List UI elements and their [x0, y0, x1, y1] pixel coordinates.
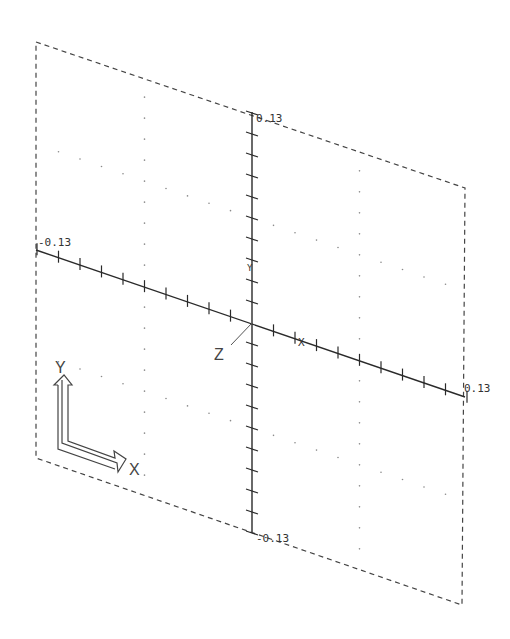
ucs-arrow-inner-icon — [58, 385, 115, 469]
ucs-y-label: Y — [55, 359, 66, 376]
ucs-arrow-outline-icon — [54, 375, 126, 472]
x-min-label: -0.13 — [38, 236, 71, 249]
ucs-x-label: X — [129, 461, 140, 478]
x-max-label: 0.13 — [464, 382, 491, 395]
z-axis-line — [231, 323, 252, 345]
y-max-label: 0.13 — [256, 112, 283, 125]
drawing-canvas: Z X Y 0.13 -0.13 -0.13 0.13 Y X — [0, 0, 510, 639]
z-axis-label: Z — [214, 346, 224, 363]
origin-y-marker: Y — [247, 263, 253, 273]
y-min-label: -0.13 — [256, 532, 289, 545]
origin-x-marker: X — [298, 336, 305, 349]
ucs-icon — [54, 375, 126, 472]
